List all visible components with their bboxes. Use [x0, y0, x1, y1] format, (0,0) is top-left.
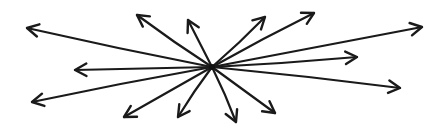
- arrow-shaft: [212, 67, 275, 113]
- arrow-shaft: [178, 67, 212, 117]
- arrow-right-lower: [212, 67, 400, 93]
- radiating-arrows-drawing: [0, 0, 439, 128]
- origin-point: [209, 64, 215, 70]
- arrow-down-left-2: [178, 67, 212, 117]
- arrow-sketch: [0, 0, 439, 128]
- arrow-down-right: [212, 67, 275, 113]
- arrow-shaft: [75, 67, 212, 70]
- arrow-left-lower: [32, 67, 212, 106]
- arrow-left-upper: [27, 24, 212, 67]
- arrow-shaft: [212, 67, 400, 88]
- arrow-shaft: [32, 67, 212, 102]
